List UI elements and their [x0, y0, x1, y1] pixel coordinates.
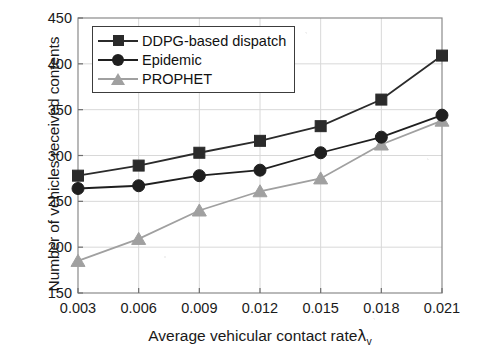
data-point-marker — [73, 170, 84, 181]
chart-legend: DDPG-based dispatchEpidemicPROPHET — [92, 26, 295, 93]
legend-label: DDPG-based dispatch — [138, 33, 286, 49]
legend-item: DDPG-based dispatch — [98, 31, 286, 50]
lambda-symbol: λ — [357, 327, 366, 345]
legend-sample-square-icon — [98, 32, 138, 50]
data-point-marker — [72, 183, 84, 195]
legend-item: Epidemic — [98, 50, 286, 69]
data-point-marker — [192, 204, 206, 216]
data-point-marker — [255, 135, 266, 146]
lambda-subscript: v — [367, 335, 372, 347]
legend-label: Epidemic — [138, 52, 202, 68]
data-point-marker — [71, 254, 85, 266]
data-point-marker — [133, 160, 144, 171]
legend-marker — [111, 73, 125, 85]
x-axis-title-text: Average vehicular contact rate — [148, 327, 357, 344]
legend-label: PROPHET — [138, 71, 212, 87]
data-point-marker — [193, 170, 205, 182]
data-point-marker — [194, 147, 205, 158]
x-axis-title: Average vehicular contact rateλv — [78, 327, 442, 347]
chart-figure: Number of vehicles received contents 150… — [0, 0, 486, 362]
data-point-marker — [436, 109, 448, 121]
legend-marker — [113, 35, 124, 46]
legend-item: PROPHET — [98, 69, 286, 88]
data-point-marker — [315, 147, 327, 159]
data-point-marker — [314, 172, 328, 184]
data-point-marker — [375, 131, 387, 143]
data-point-marker — [254, 164, 266, 176]
data-point-marker — [133, 180, 145, 192]
data-point-marker — [315, 121, 326, 132]
legend-sample-circle-icon — [98, 51, 138, 69]
data-point-marker — [376, 94, 387, 105]
legend-sample-triangle-icon — [98, 70, 138, 88]
legend-marker — [112, 54, 124, 66]
data-point-marker — [437, 50, 448, 61]
data-point-marker — [132, 232, 146, 244]
